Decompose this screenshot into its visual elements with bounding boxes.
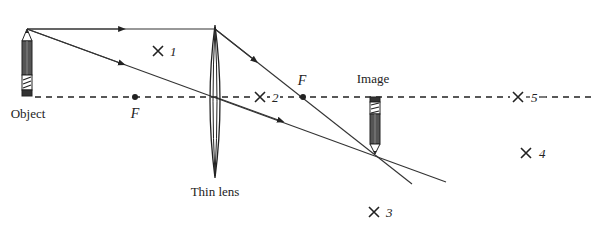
ray-diagram: Thin lens Object F F Image 1 2 3	[0, 0, 594, 232]
focal-point-right	[300, 94, 306, 100]
thin-lens	[210, 25, 220, 178]
image-pencil-icon	[370, 97, 380, 154]
object-label: Object	[11, 106, 46, 121]
svg-text:5: 5	[531, 90, 538, 105]
ray-central	[27, 29, 446, 182]
object-pencil-icon	[22, 29, 32, 96]
svg-text:4: 4	[539, 146, 546, 161]
svg-text:3: 3	[385, 205, 393, 220]
focal-point-left	[132, 94, 138, 100]
focal-left-label: F	[130, 106, 140, 121]
position-marker-3: 3	[369, 205, 393, 220]
position-marker-5: 5	[510, 90, 546, 105]
position-marker-2: 2	[253, 90, 280, 105]
position-marker-1: 1	[153, 44, 177, 59]
svg-text:2: 2	[272, 90, 279, 105]
svg-text:1: 1	[170, 44, 177, 59]
focal-right-label: F	[297, 73, 307, 88]
image-label: Image	[357, 71, 390, 86]
lens-label: Thin lens	[191, 184, 240, 199]
position-marker-4: 4	[521, 146, 546, 161]
